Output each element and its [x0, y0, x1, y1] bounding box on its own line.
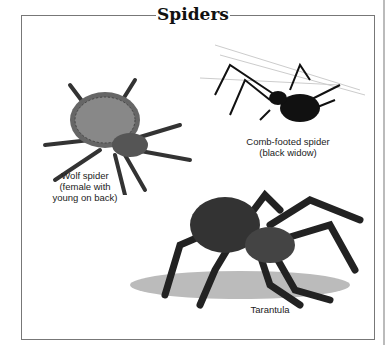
caption-line: Wolf spider	[40, 170, 130, 181]
title-text: Spiders	[156, 4, 230, 24]
caption-line: Tarantula	[240, 304, 300, 315]
black-widow-illustration	[200, 40, 370, 130]
caption-line: (black widow)	[238, 147, 338, 158]
caption-line: young on back)	[40, 192, 130, 203]
page-title: Spiders	[0, 4, 386, 24]
tarantula-caption: Tarantula	[240, 304, 300, 315]
caption-line: Comb-footed spider	[238, 136, 338, 147]
page-edge-line	[383, 0, 385, 345]
black-widow-caption: Comb-footed spider (black widow)	[238, 136, 338, 158]
caption-line: (female with	[40, 181, 130, 192]
wolf-spider-caption: Wolf spider (female with young on back)	[40, 170, 130, 203]
tarantula-illustration	[120, 185, 376, 310]
